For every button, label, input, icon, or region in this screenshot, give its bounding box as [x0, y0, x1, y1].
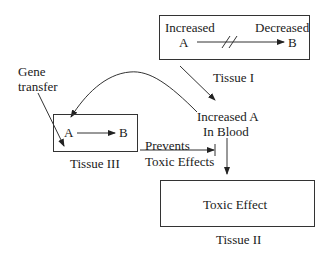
- tissue2-content: Toxic Effect: [203, 198, 267, 212]
- gene-transfer-line1: Gene: [18, 65, 45, 79]
- blood-line1: Increased A: [197, 110, 259, 124]
- gene-transfer-line2: transfer: [18, 80, 58, 94]
- blood-line2: In Blood: [203, 125, 249, 139]
- tissue1-decreased-label: Decreased: [255, 21, 309, 35]
- tissue1-b: B: [288, 36, 297, 50]
- tissue3-caption: Tissue III: [70, 157, 120, 171]
- tissue1-caption: Tissue I: [213, 71, 254, 85]
- tissue1-increased-label: Increased: [165, 21, 215, 35]
- prevents-line1: Prevents: [145, 139, 190, 153]
- tissue1-a: A: [179, 36, 188, 50]
- tissue2-caption: Tissue II: [216, 233, 261, 247]
- prevents-line2: Toxic Effects: [145, 155, 214, 169]
- tissue3-a: A: [64, 126, 73, 140]
- tissue3-b: B: [119, 126, 128, 140]
